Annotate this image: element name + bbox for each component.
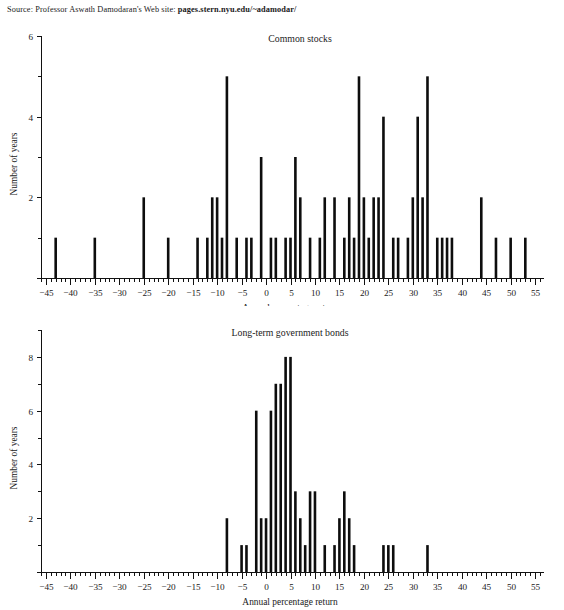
- histogram-bar: [426, 76, 429, 278]
- histogram-bar: [397, 238, 400, 278]
- histogram-bar: [338, 518, 341, 572]
- histogram-bar: [426, 545, 429, 572]
- y-tick-label: 4: [28, 460, 33, 470]
- y-tick-label: 2: [28, 514, 33, 524]
- histogram-bar: [382, 545, 385, 572]
- source-url: pages.stern.nyu.edu/~adamodar/: [178, 5, 297, 14]
- x-tick-label: −15: [186, 288, 201, 298]
- x-tick-label: −45: [39, 288, 54, 298]
- histogram-bar: [299, 197, 302, 278]
- histogram-bar: [275, 238, 278, 278]
- chart-panel-common-stocks: Common stocks246−45−40−35−30−25−20−15−10…: [0, 24, 564, 306]
- histogram-bar: [416, 117, 419, 278]
- histogram-bar: [226, 76, 229, 278]
- histogram-bar: [270, 411, 273, 572]
- histogram-bar: [304, 545, 307, 572]
- x-tick-label: −20: [161, 582, 176, 592]
- histogram-bar: [196, 238, 199, 278]
- x-tick-label: 45: [482, 582, 492, 592]
- histogram-bar: [343, 491, 346, 572]
- histogram-bar: [441, 238, 444, 278]
- x-tick-label: −40: [63, 288, 78, 298]
- histogram-bar: [211, 197, 214, 278]
- source-prefix: Source: Professor Aswath Damodaran's Web…: [7, 5, 176, 14]
- long-term-government-bonds-histogram: Long-term government bonds2468−45−40−35−…: [0, 318, 564, 610]
- histogram-bar: [260, 518, 263, 572]
- histogram-bar: [314, 491, 317, 572]
- histogram-bar: [260, 157, 263, 278]
- chart-title: Common stocks: [268, 33, 332, 44]
- x-tick-label: −25: [137, 288, 152, 298]
- histogram-bar: [323, 197, 326, 278]
- histogram-bar: [319, 238, 322, 278]
- x-tick-label: 10: [311, 288, 321, 298]
- x-tick-label: 30: [409, 288, 419, 298]
- x-tick-label: 0: [264, 582, 269, 592]
- x-tick-label: −5: [238, 288, 248, 298]
- histogram-bar: [206, 238, 209, 278]
- histogram-bar: [284, 357, 287, 572]
- x-tick-label: −10: [210, 288, 225, 298]
- x-tick-label: −30: [112, 288, 127, 298]
- histogram-bar: [451, 238, 454, 278]
- histogram-bar: [524, 238, 527, 278]
- histogram-bar: [358, 76, 361, 278]
- histogram-bar: [279, 384, 282, 572]
- x-tick-label: 55: [531, 582, 541, 592]
- histogram-bar: [235, 238, 238, 278]
- histogram-bar: [333, 197, 336, 278]
- y-axis-title: Number of years: [9, 426, 19, 489]
- x-tick-label: −45: [39, 582, 54, 592]
- histogram-bar: [284, 238, 287, 278]
- histogram-bar: [245, 238, 248, 278]
- histogram-bar: [392, 545, 395, 572]
- x-tick-label: 15: [335, 582, 345, 592]
- chart-panel-long-term-government-bonds: Long-term government bonds2468−45−40−35−…: [0, 318, 564, 610]
- x-tick-label: −10: [210, 582, 225, 592]
- histogram-bar: [363, 197, 366, 278]
- x-tick-label: −35: [88, 582, 103, 592]
- y-tick-label: 2: [28, 193, 33, 203]
- histogram-bar: [94, 238, 97, 278]
- histogram-bar: [348, 518, 351, 572]
- histogram-bar: [407, 238, 410, 278]
- histogram-bar: [382, 117, 385, 278]
- histogram-bar: [270, 238, 273, 278]
- histogram-bar: [446, 238, 449, 278]
- x-tick-label: 40: [458, 582, 468, 592]
- histogram-bar: [480, 197, 483, 278]
- histogram-bar: [250, 238, 253, 278]
- x-tick-label: −40: [63, 582, 78, 592]
- x-tick-label: 15: [335, 288, 345, 298]
- histogram-bar: [392, 238, 395, 278]
- x-tick-label: 50: [507, 288, 517, 298]
- x-axis-title: Annual percentage return: [242, 303, 338, 306]
- histogram-bar: [421, 197, 424, 278]
- histogram-bar: [167, 238, 170, 278]
- common-stocks-histogram: Common stocks246−45−40−35−30−25−20−15−10…: [0, 24, 564, 306]
- x-tick-label: 20: [360, 288, 370, 298]
- x-tick-label: 40: [458, 288, 468, 298]
- x-tick-label: −30: [112, 582, 127, 592]
- x-tick-label: 45: [482, 288, 492, 298]
- x-tick-label: −5: [238, 582, 248, 592]
- histogram-bar: [436, 238, 439, 278]
- x-tick-label: −35: [88, 288, 103, 298]
- histogram-bar: [245, 545, 248, 572]
- x-tick-label: 50: [507, 582, 517, 592]
- x-tick-label: 5: [289, 288, 294, 298]
- histogram-bar: [377, 197, 380, 278]
- x-tick-label: 10: [311, 582, 321, 592]
- histogram-bar: [343, 238, 346, 278]
- y-tick-label: 6: [28, 32, 33, 42]
- histogram-bar: [309, 491, 312, 572]
- x-tick-label: 5: [289, 582, 294, 592]
- chart-title: Long-term government bonds: [232, 327, 349, 338]
- x-tick-label: 20: [360, 582, 370, 592]
- x-tick-label: −15: [186, 582, 201, 592]
- histogram-bar: [142, 197, 145, 278]
- y-tick-label: 8: [28, 353, 33, 363]
- source-citation: Source: Professor Aswath Damodaran's Web…: [7, 5, 297, 14]
- histogram-bar: [289, 238, 292, 278]
- histogram-bar: [372, 197, 375, 278]
